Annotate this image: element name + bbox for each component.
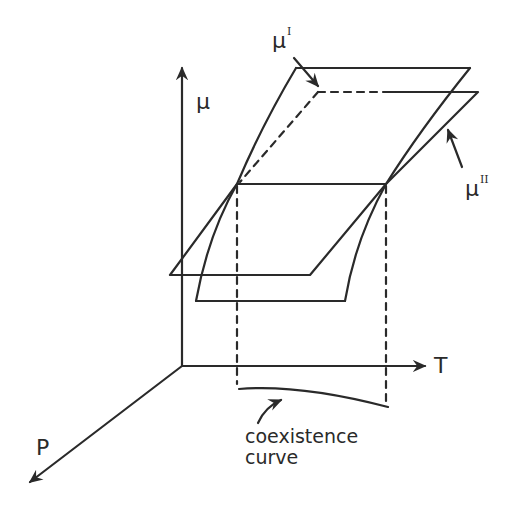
mu-axis-label-text: μ — [196, 89, 210, 114]
mu-II-superscript: II — [480, 173, 489, 186]
coexistence-curve — [239, 388, 388, 407]
coexistence-label-line1: coexistence — [245, 426, 358, 447]
coexistence-label-line2: curve — [245, 447, 358, 468]
mu-II-label: μII — [465, 178, 488, 200]
mu-I-symbol: μ — [272, 28, 286, 53]
surface-mu-II-hidden-edges — [240, 92, 458, 182]
t-axis-label-text: T — [434, 353, 447, 378]
p-axis-label-text: P — [36, 435, 49, 460]
mu-II-symbol: μ — [465, 176, 479, 201]
mu-I-label: μI — [272, 30, 290, 52]
coexistence-pointer-arrow — [258, 400, 281, 423]
mu-I-superscript: I — [287, 25, 291, 38]
p-axis — [30, 366, 182, 482]
surface-mu-II — [170, 92, 478, 275]
t-axis-label: T — [434, 355, 447, 377]
mu-I-pointer-arrow — [294, 58, 318, 86]
p-axis-label: P — [36, 437, 49, 459]
coexistence-curve-label: coexistence curve — [245, 426, 358, 468]
mu-II-pointer-arrow — [448, 130, 462, 167]
mu-axis-label: μ — [196, 91, 210, 113]
